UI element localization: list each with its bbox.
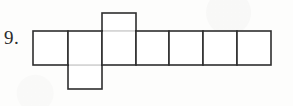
net-cell-3-below [68,65,102,89]
net-cell-5-row [102,31,136,65]
net-cell-1-row [33,31,68,65]
net-cell-4-above [102,13,136,31]
net-cell-7-row [169,31,203,65]
box-net-diagram [0,0,293,106]
net-cell-6-row [136,31,169,65]
net-cell-2-row [68,31,102,65]
net-cell-8-row [203,31,237,65]
figure-canvas: 9. [0,0,293,106]
net-cell-9-row [237,31,271,65]
